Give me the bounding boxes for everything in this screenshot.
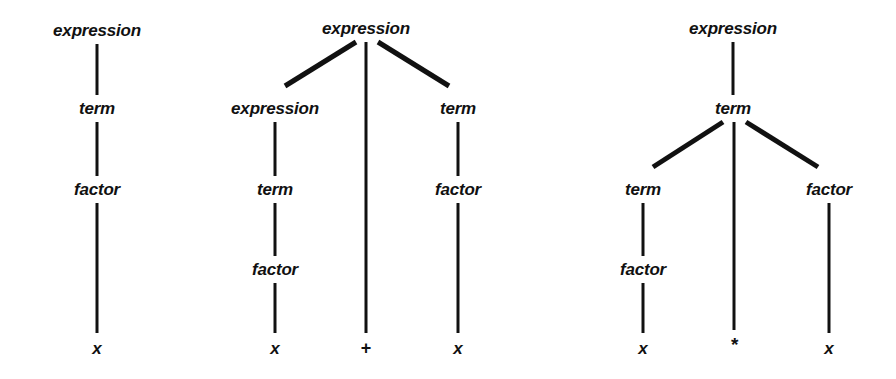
nonterminal-node-label: factor (435, 181, 481, 198)
parse-tree-figure: expressiontermfactorxexpressionexpressio… (0, 0, 896, 379)
nonterminal-node-label: factor (74, 181, 120, 198)
tree-edge (653, 122, 723, 167)
nonterminal-node-label: term (257, 181, 293, 198)
nonterminal-node-label: factor (620, 261, 666, 278)
terminal-node-label: x (270, 340, 279, 357)
terminal-node-label: x (92, 340, 101, 357)
terminal-node-label: * (730, 335, 737, 354)
nonterminal-node-label: term (625, 181, 661, 198)
nonterminal-node-label: expression (689, 20, 777, 37)
nonterminal-node-label: term (440, 100, 476, 117)
tree-edge (746, 122, 818, 167)
nonterminal-node-label: factor (806, 181, 852, 198)
terminal-node-label: x (638, 340, 647, 357)
nonterminal-node-label: factor (252, 261, 298, 278)
terminal-node-label: x (824, 340, 833, 357)
tree-edge (378, 42, 449, 86)
terminal-node-label: x (453, 340, 462, 357)
nonterminal-node-label: expression (322, 20, 410, 37)
nonterminal-node-label: expression (53, 22, 141, 39)
tree-edge (285, 42, 356, 86)
terminal-node-label: + (361, 339, 372, 357)
nonterminal-node-label: term (715, 100, 751, 117)
nonterminal-node-label: term (79, 100, 115, 117)
nonterminal-node-label: expression (231, 100, 319, 117)
